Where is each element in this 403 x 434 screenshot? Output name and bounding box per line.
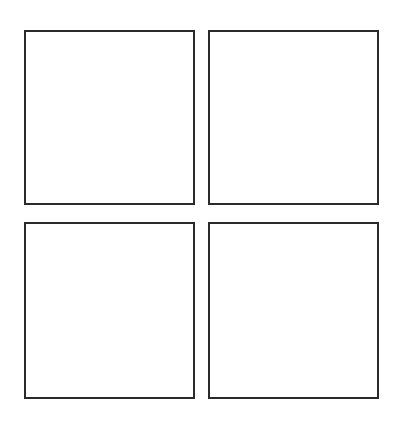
- empty-box-bottom-right: [208, 222, 379, 399]
- worksheet-page: [0, 0, 403, 434]
- empty-box-top-left: [24, 30, 195, 205]
- empty-box-top-right: [208, 30, 379, 205]
- empty-box-bottom-left: [24, 222, 195, 399]
